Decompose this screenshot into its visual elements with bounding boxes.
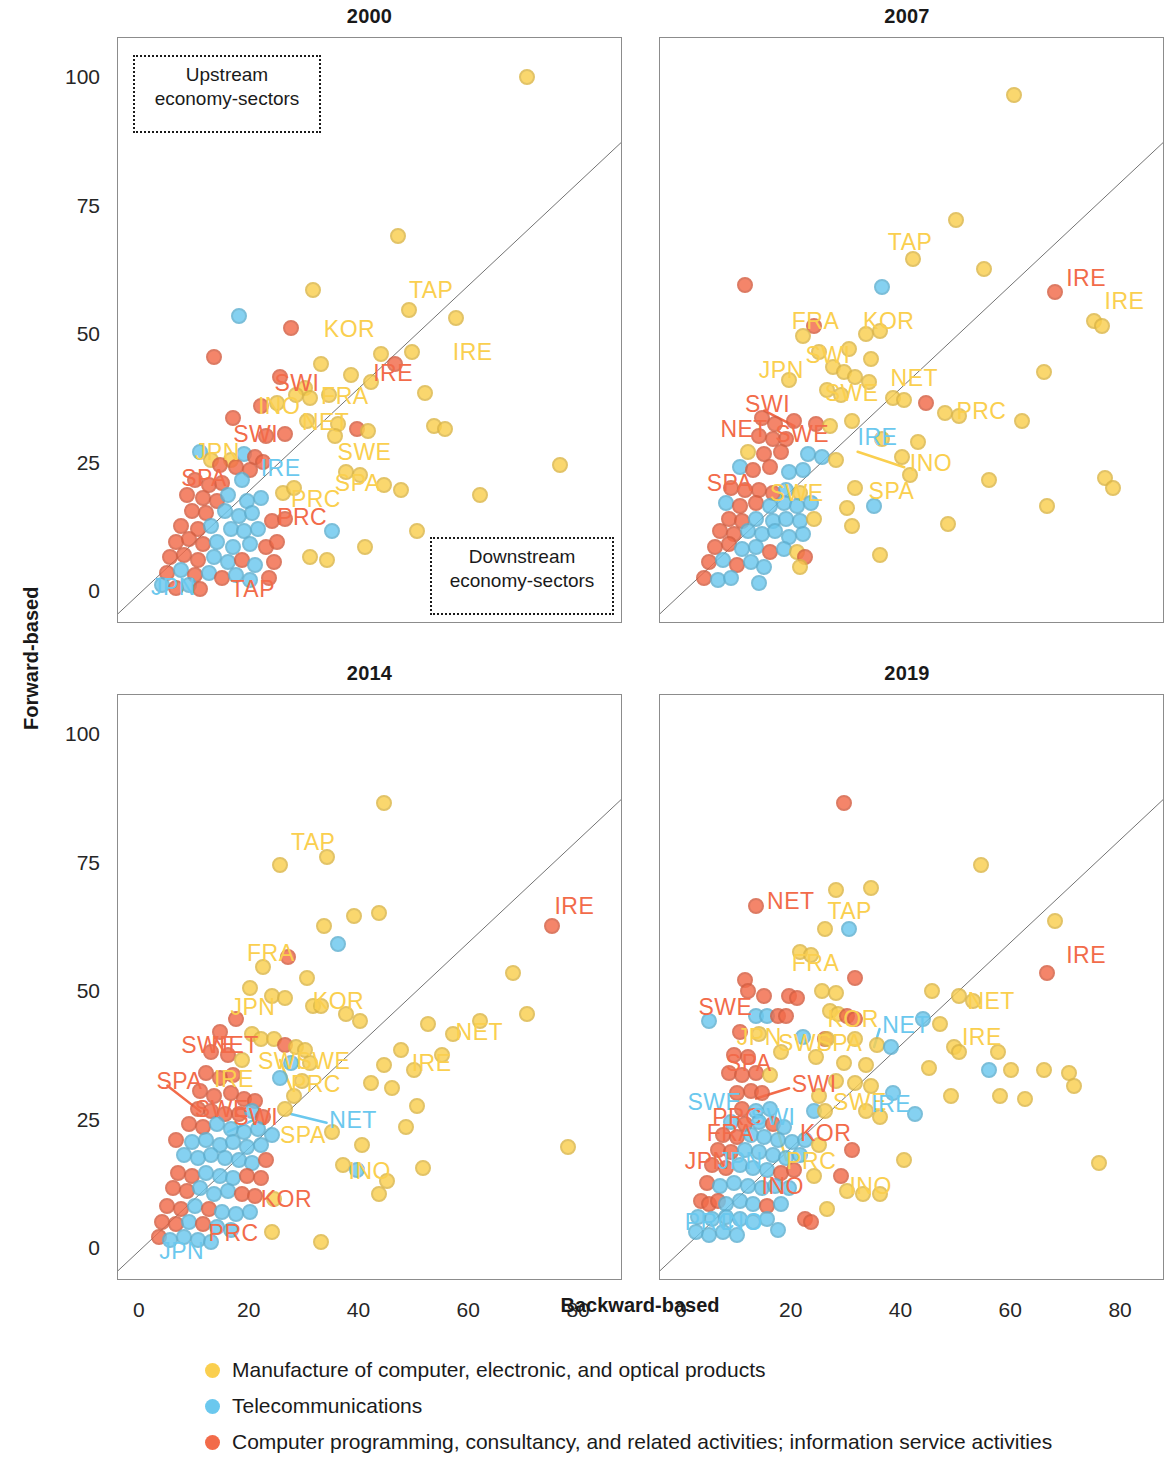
data-point (1003, 1062, 1019, 1078)
data-point (404, 344, 420, 360)
scatter-panel-2014: TAPIREFRAKORJPNNETNETSWESWISWEIREIRESPAP… (117, 694, 622, 1280)
country-label: NET (882, 1012, 930, 1039)
data-point (472, 487, 488, 503)
data-point (762, 459, 778, 475)
data-point (992, 1088, 1008, 1104)
data-point (415, 1160, 431, 1176)
country-label: JPN (159, 1238, 204, 1265)
data-point (948, 212, 964, 228)
country-label: TAP (827, 898, 872, 925)
data-point (264, 1224, 280, 1240)
country-label: SWE (698, 994, 752, 1021)
data-point (973, 857, 989, 873)
data-point (330, 936, 346, 952)
country-label: FRA (321, 383, 369, 410)
panel-title-2014: 2014 (117, 662, 622, 685)
data-point (448, 310, 464, 326)
data-point (409, 1098, 425, 1114)
legend-item-label: Telecommunications (232, 1394, 422, 1418)
data-point (740, 444, 756, 460)
data-point (751, 575, 767, 591)
annotation-downstream: Downstream economy-sectors (430, 537, 614, 615)
scatter-panel-2007: TAPIREIREKORFRASWIJPNNETSWESWIPRCNETSWEI… (659, 37, 1164, 623)
data-point (910, 434, 926, 450)
country-label: SWE (775, 421, 829, 448)
data-point (560, 1139, 576, 1155)
x-tick-label: 40 (329, 1298, 389, 1322)
country-label: SWE (338, 439, 392, 466)
country-label: KOR (863, 308, 914, 335)
country-label: IRE (261, 455, 301, 482)
country-label: PRC (277, 504, 327, 531)
data-point (357, 539, 373, 555)
data-point (393, 482, 409, 498)
data-point (844, 518, 860, 534)
annotation-downstream-line2: economy-sectors (432, 569, 612, 593)
country-label: IRE (214, 1066, 254, 1093)
data-point (795, 526, 811, 542)
country-label: NET (302, 409, 350, 436)
legend-item-telecom: Telecommunications (205, 1388, 1145, 1424)
data-point (896, 392, 912, 408)
country-label: IRE (453, 339, 493, 366)
country-label: TAP (291, 829, 336, 856)
country-label: TAP (888, 229, 933, 256)
data-point (828, 882, 844, 898)
data-point (1036, 364, 1052, 380)
data-point (872, 547, 888, 563)
country-label: SPA (816, 1030, 862, 1057)
data-point (231, 308, 247, 324)
data-point (393, 1042, 409, 1058)
data-point (981, 1062, 997, 1078)
data-point (847, 970, 863, 986)
data-point (371, 905, 387, 921)
country-label: INO (762, 1173, 804, 1200)
country-label: INO (258, 393, 300, 420)
country-label: IRE (1105, 288, 1145, 315)
country-label: KOR (261, 1186, 312, 1213)
data-point (874, 279, 890, 295)
country-label: NET (967, 988, 1015, 1015)
data-point (319, 552, 335, 568)
x-axis-title: Backward-based (440, 1294, 840, 1317)
annotation-upstream: Upstream economy-sectors (133, 55, 321, 133)
data-point (943, 1088, 959, 1104)
country-label: PRC (956, 398, 1006, 425)
reference-line-layer (660, 695, 1164, 1280)
data-point (896, 1152, 912, 1168)
country-label: FRA (707, 1120, 755, 1147)
country-label: INO (349, 1158, 391, 1185)
data-point (209, 534, 225, 550)
data-point (247, 557, 263, 573)
country-label: SPA (335, 470, 381, 497)
data-point (376, 1057, 392, 1073)
data-point (1094, 318, 1110, 334)
country-label: PRC (291, 1071, 341, 1098)
data-point (250, 521, 266, 537)
x-tick-label: 80 (1090, 1298, 1150, 1322)
country-label: SWI (805, 342, 850, 369)
data-point (981, 472, 997, 488)
data-point (360, 423, 376, 439)
country-label: JPN (718, 1148, 763, 1175)
data-point (203, 518, 219, 534)
panel-title-2019: 2019 (659, 662, 1155, 685)
y-tick-label: 100 (40, 722, 100, 746)
country-label: INO (849, 1173, 891, 1200)
y-tick-label: 25 (40, 451, 100, 475)
country-label: FRA (247, 940, 295, 967)
data-point (836, 795, 852, 811)
country-label: IRE (871, 1091, 911, 1118)
data-point (778, 1008, 794, 1024)
y-axis-title: Forward-based (20, 587, 43, 730)
data-point (244, 505, 260, 521)
data-point (1014, 413, 1030, 429)
country-label: NET (329, 1107, 377, 1134)
data-point (1105, 480, 1121, 496)
country-label: KOR (800, 1120, 851, 1147)
country-label: SWI (792, 1071, 837, 1098)
data-point (756, 988, 772, 1004)
country-label: JPN (195, 439, 240, 466)
data-point (803, 1214, 819, 1230)
data-point (1039, 498, 1055, 514)
